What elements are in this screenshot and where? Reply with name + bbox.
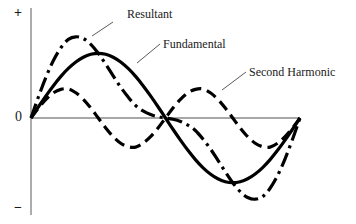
leader-line-resultant: [92, 22, 113, 36]
y-axis-zero-label: 0: [15, 110, 22, 124]
waveform-harmonics-figure: + 0 − Resultant Fundamental Second Harmo…: [0, 0, 356, 224]
series-label-second-harmonic: Second Harmonic: [249, 66, 335, 78]
leader-line-fundamental: [137, 44, 160, 63]
y-axis-positive-label: +: [14, 6, 22, 20]
annotation-leader-lines: [92, 22, 246, 90]
series-label-fundamental: Fundamental: [163, 38, 226, 50]
series-label-resultant: Resultant: [127, 8, 172, 20]
leader-line-second-harmonic: [222, 72, 246, 90]
chart-canvas: [0, 0, 356, 224]
y-axis-negative-label: −: [14, 201, 22, 215]
